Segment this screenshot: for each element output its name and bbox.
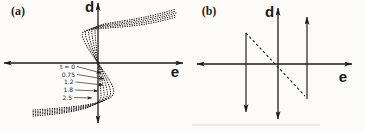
panel-b: (b)ed [197, 3, 352, 119]
panel-a-x-axis-label: e [171, 63, 179, 80]
panel-b-title: (b) [202, 4, 217, 18]
figure-canvas: t = 00.751.21.82.5(a)ed(b)ed [0, 0, 365, 131]
time-label-1-2: 1.2 [64, 78, 74, 85]
panel-b-x-axis-label: e [339, 68, 347, 85]
leader-1-8 [75, 90, 98, 91]
leader-1-2 [76, 82, 104, 85]
scan-streak [192, 124, 320, 126]
time-label-2-5: 2.5 [62, 94, 72, 101]
time-label-0-75: 0.75 [62, 71, 76, 78]
panel-b-y-axis-label: d [265, 3, 274, 20]
leader-2-5 [74, 98, 92, 99]
time-label-1-8: 1.8 [63, 86, 73, 93]
panel-a: t = 00.751.21.82.5(a)ed [4, 0, 183, 123]
panel-a-title: (a) [11, 4, 25, 18]
figure: t = 00.751.21.82.5(a)ed(b)ed [0, 0, 365, 131]
panel-a-y-axis-label: d [85, 0, 94, 15]
